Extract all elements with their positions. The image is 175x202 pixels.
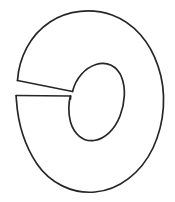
slit-upper-edge bbox=[18, 81, 73, 92]
slit-lower-edge bbox=[16, 96, 70, 97]
shape-group bbox=[16, 11, 163, 192]
ring-line-drawing bbox=[0, 0, 175, 202]
drawing-canvas bbox=[0, 0, 175, 202]
outer-ring-outline bbox=[16, 11, 163, 192]
inner-hole-outline bbox=[69, 63, 125, 140]
